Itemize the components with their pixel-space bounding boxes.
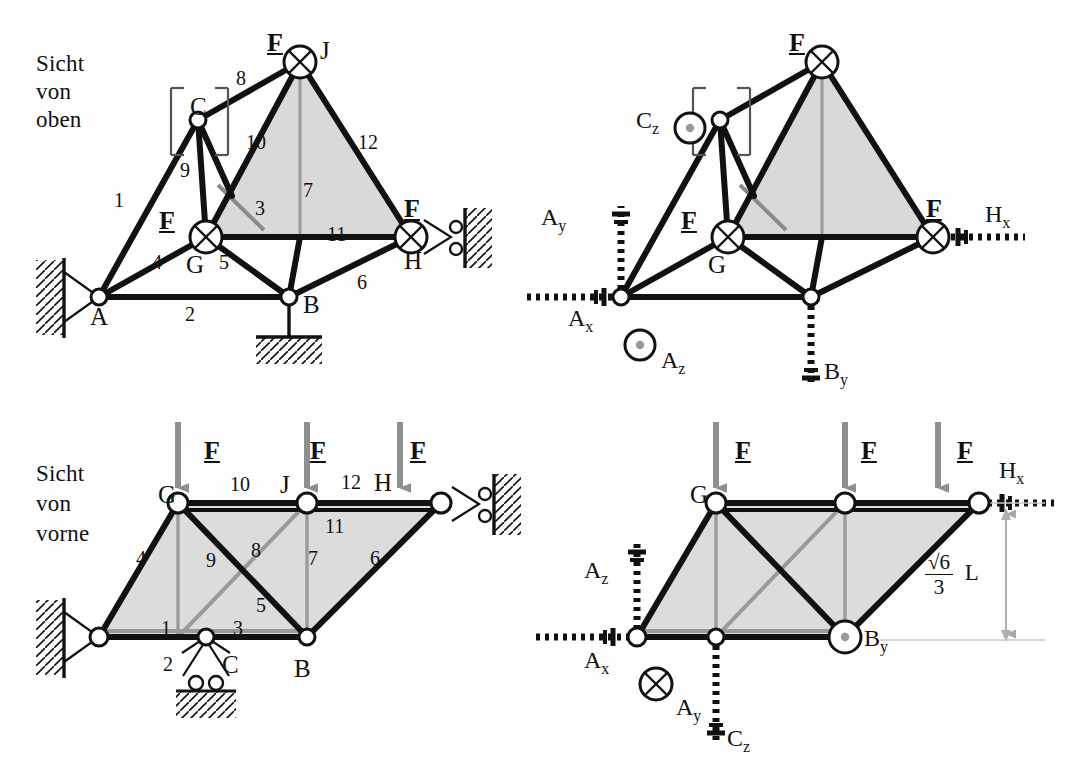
reaction-label-ax: Ax [568,306,593,335]
member-label-1: 1 [114,190,124,210]
reaction-label-by-front: By [864,626,888,655]
node-label-g-front: G [158,482,176,507]
reaction-label-cz-front: Cz [727,726,750,755]
node-label-h: H [404,248,422,273]
view-title-top-line3: oben [36,108,82,131]
member-label-11-front: 11 [325,516,344,536]
member-label-5: 5 [219,252,229,272]
force-label-g-fbd-front: F [735,438,751,464]
reaction-label-ax-front: Ax [584,648,609,677]
node-label-a: A [90,304,108,329]
shaded-face [99,503,441,637]
figure-canvas: Sicht von oben A B C G H J 1 2 3 4 5 6 7… [0,0,1067,776]
member-label-4: 4 [152,252,162,272]
member-label-12-front: 12 [341,472,361,492]
member-label-9: 9 [180,160,190,180]
force-label-j: F [267,30,283,56]
support-roller-h [424,208,492,268]
member-label-8: 8 [236,68,246,88]
node-label-b-front: B [294,656,311,681]
dimension-denominator: 3 [925,575,953,599]
support-roller-h [452,474,521,535]
view-title-front-line2: von [36,492,71,515]
reaction-label-cz: Cz [636,108,659,137]
force-label-h-front: F [410,438,426,464]
member-label-2: 2 [185,304,195,324]
member-label-9-front: 9 [206,550,216,570]
force-label-j-fbd: F [789,30,805,56]
node-label-g: G [186,252,204,277]
force-label-g: F [159,208,175,234]
figure-svg [0,0,1067,776]
member-label-3: 3 [255,198,265,218]
node-label-g-fbd: G [708,252,726,277]
reaction-label-az-front: Az [584,558,608,587]
reaction-label-hx: Hx [985,202,1010,231]
member-label-10: 10 [246,132,266,152]
dimension-unit: L [965,560,979,585]
reaction-label-by: By [824,359,848,388]
member-label-11: 11 [327,224,346,244]
member-label-12: 12 [358,132,378,152]
node-label-g-fbd-front: G [690,482,708,507]
member-label-3-front: 3 [233,618,243,638]
dimension-label: √6 3 L [925,550,979,599]
view-title-front-line3: vorne [36,522,89,545]
force-label-j-fbd-front: F [861,438,877,464]
member-label-7: 7 [303,180,313,200]
panel-bottom-left [36,422,521,718]
reaction-label-hx-front: Hx [999,458,1024,487]
force-label-g-fbd: F [681,208,697,234]
force-label-h-fbd: F [926,196,942,222]
view-title-top-line2: von [36,80,71,103]
member-label-6: 6 [357,272,367,292]
node-label-j: J [320,38,330,63]
view-title-top-line1: Sicht [36,52,84,75]
panel-top-right [527,46,1025,386]
force-label-g-front: F [204,438,220,464]
member-label-2-front: 2 [163,654,173,674]
member-6 [289,237,411,297]
node-label-c-front: C [222,652,239,677]
force-label-h-fbd-front: F [957,438,973,464]
member-label-7-front: 7 [308,548,318,568]
member-label-1-front: 1 [161,618,171,638]
member-label-6-front: 6 [370,548,380,568]
reaction-label-ay: Ay [541,205,566,234]
node-label-c: C [190,94,207,119]
shaded-face [728,62,933,237]
force-label-h: F [404,196,420,222]
member-6 [811,237,933,297]
dimension-numerator: √6 [925,550,953,575]
member-label-8-front: 8 [251,540,261,560]
reaction-label-az: Az [661,348,685,377]
node-label-b: B [303,292,320,317]
member-label-4-front: 4 [136,548,146,568]
dimension-fraction: √6 3 [925,550,953,599]
member-label-5-front: 5 [256,595,266,615]
node-label-j-front: J [280,472,290,497]
member-label-10-front: 10 [230,474,250,494]
node-label-h-front: H [374,470,392,495]
reaction-label-ay-front: Ay [676,695,701,724]
view-title-front-line1: Sicht [36,462,84,485]
force-label-j-front: F [310,438,326,464]
